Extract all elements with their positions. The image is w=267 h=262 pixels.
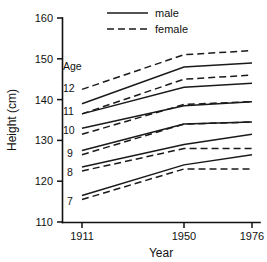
series-line-8-male (82, 134, 252, 167)
age-header-label: Age (63, 60, 82, 72)
y-tick-label-160: 160 (35, 12, 53, 24)
x-tick-label-1950: 1950 (172, 230, 196, 242)
y-tick-label-140: 140 (35, 94, 53, 106)
y-tick-label-110: 110 (35, 216, 53, 228)
y-tick-label-130: 130 (35, 134, 53, 146)
legend-label-female: female (155, 23, 188, 35)
x-tick-labels: 1911 1950 1976 (70, 230, 264, 242)
y-axis-title: Height (cm) (5, 89, 19, 151)
y-tick-label-120: 120 (35, 175, 53, 187)
age-annotations: Age 12 11 10 9 8 7 (63, 60, 82, 207)
chart-figure: 160 150 140 130 120 110 1911 1950 1976 Y… (0, 0, 267, 262)
legend-label-male: male (155, 7, 179, 19)
x-axis-title: Year (149, 246, 173, 260)
y-tick-labels: 160 150 140 130 120 110 (35, 12, 53, 228)
data-series-layer (82, 51, 252, 200)
age-label-7: 7 (67, 195, 73, 207)
series-line-8-female (82, 149, 252, 171)
age-label-10: 10 (63, 124, 75, 136)
x-tick-label-1976: 1976 (240, 230, 264, 242)
age-label-11: 11 (63, 105, 74, 117)
age-label-12: 12 (63, 82, 75, 94)
series-line-12-male (82, 63, 252, 104)
line-chart-svg: 160 150 140 130 120 110 1911 1950 1976 Y… (0, 0, 267, 262)
x-tick-label-1911: 1911 (70, 230, 94, 242)
series-line-12-female (82, 51, 252, 90)
series-line-7-female (82, 169, 252, 200)
age-label-9: 9 (67, 147, 73, 159)
chart-legend: male female (107, 7, 188, 35)
age-label-8: 8 (67, 166, 73, 178)
y-tick-label-150: 150 (35, 53, 53, 65)
